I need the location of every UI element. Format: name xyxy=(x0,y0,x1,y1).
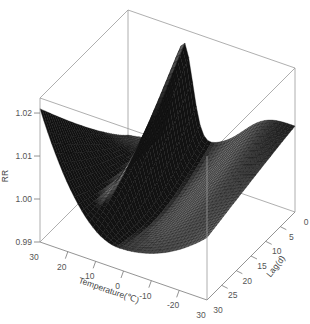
temperature-tick xyxy=(149,281,152,288)
lag-tick-label: 30 xyxy=(213,305,223,315)
temperature-tick xyxy=(177,290,180,297)
lag-tick xyxy=(266,241,272,244)
surface-mesh xyxy=(40,43,295,253)
temperature-tick-label: 30 xyxy=(29,252,39,262)
temperature-tick xyxy=(65,252,68,259)
temperature-tick-label: -20 xyxy=(167,300,180,310)
temperature-tick-label: 30 xyxy=(196,310,206,320)
rr-axis-title: RR xyxy=(0,170,10,182)
temperature-axis-title: Temperature(℃) xyxy=(77,275,140,305)
lag-tick xyxy=(222,285,228,288)
rr-tick-label: 1.02 xyxy=(15,108,32,118)
temperature-tick-label: 20 xyxy=(57,262,67,272)
temperature-tick-label: -10 xyxy=(139,291,152,301)
lag-tick-label: 0 xyxy=(304,217,309,227)
temperature-tick xyxy=(93,261,96,268)
lag-axis-title: Lag(d) xyxy=(264,253,287,279)
box-edge xyxy=(128,10,295,68)
lag-tick-label: 25 xyxy=(228,290,238,300)
box-edge xyxy=(40,10,128,98)
lag-tick xyxy=(280,227,286,230)
lag-tick xyxy=(236,271,242,274)
lag-axis: 051015202530 xyxy=(213,217,308,315)
rr-axis: 0.991.001.011.02 xyxy=(15,108,40,247)
lag-tick xyxy=(251,256,257,259)
rr-tick-label: 1.01 xyxy=(15,151,32,161)
temperature-axis: 3020100-10-2030 xyxy=(29,252,206,320)
rr-tick-label: 1.00 xyxy=(15,194,32,204)
temperature-tick xyxy=(121,271,124,278)
lag-tick-label: 20 xyxy=(243,276,253,286)
surface-plot: 0.991.001.011.02 3020100-10-2030 0510152… xyxy=(0,0,310,324)
rr-tick-label: 0.99 xyxy=(15,237,32,247)
lag-tick-label: 5 xyxy=(289,232,294,242)
